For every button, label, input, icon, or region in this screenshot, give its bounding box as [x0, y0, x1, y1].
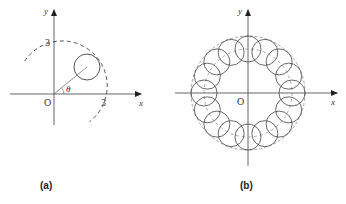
y-axis-label-a: y: [43, 6, 48, 16]
origin-label-a: O: [44, 97, 51, 108]
y-axis-label-b: y: [237, 6, 242, 16]
ring-circle: [276, 97, 302, 123]
caption-b: (b): [240, 180, 253, 191]
ring-circle: [252, 121, 278, 147]
ring-circle: [204, 49, 230, 75]
panel-b: y x O: [175, 6, 337, 166]
dashed-orbit-arc-a: [25, 41, 108, 122]
caption-a: (a): [40, 180, 52, 191]
theta-label-a: θ: [66, 84, 71, 94]
ring-circle: [194, 63, 220, 89]
figure-canvas: y x O 3 3 θ y x O: [0, 0, 346, 204]
x-axis-label-b: x: [330, 97, 335, 107]
x-axis-label-a: x: [138, 98, 143, 108]
theta-arc-a: [62, 88, 64, 94]
ring-circle: [218, 39, 244, 65]
x-radius-tick-label-a: 3: [101, 97, 106, 108]
origin-label-b: O: [237, 96, 244, 107]
ring-circle: [266, 111, 292, 137]
panel-a: y x O 3 3 θ: [10, 6, 143, 125]
y-radius-tick-label-a: 3: [45, 37, 50, 48]
radius-line-a: [54, 67, 87, 94]
